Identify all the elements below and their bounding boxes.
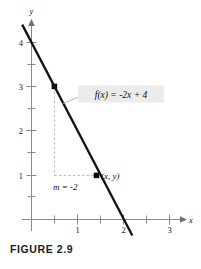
- equation-leader-line: [63, 97, 80, 104]
- axes-group: [22, 19, 187, 231]
- function-line: [22, 25, 132, 236]
- figure-caption: FIGURE 2.9: [10, 243, 73, 255]
- y-axis-arrowhead: [28, 19, 35, 26]
- x-tick-labels: 1 2 3: [75, 225, 171, 235]
- equation-label-text: f(x) = -2x + 4: [95, 90, 148, 101]
- y-tick-label-2: 2: [19, 126, 23, 136]
- figure-container: 1 2 3 1 2 3 4 x y f(x) = -2x + 4: [0, 0, 201, 269]
- x-tick-label-1: 1: [75, 225, 79, 235]
- equation-label: f(x) = -2x + 4: [78, 86, 164, 103]
- y-tick-labels: 1 2 3 4: [19, 38, 24, 181]
- x-tick-label-3: 3: [167, 225, 171, 235]
- point-coordinate-label: (x, y): [101, 171, 119, 181]
- point-marker-1: [94, 173, 100, 179]
- y-tick-label-4: 4: [19, 38, 24, 48]
- graph-plot: 1 2 3 1 2 3 4 x y f(x) = -2x + 4: [0, 0, 201, 240]
- x-axis-arrowhead: [180, 216, 187, 223]
- y-tick-label-3: 3: [19, 82, 23, 92]
- x-axis-label: x: [188, 215, 193, 225]
- y-tick-label-1: 1: [19, 171, 23, 181]
- x-tick-label-2: 2: [121, 225, 125, 235]
- slope-label: m = -2: [53, 182, 78, 192]
- point-marker-0: [52, 84, 58, 90]
- y-axis-label: y: [29, 6, 34, 16]
